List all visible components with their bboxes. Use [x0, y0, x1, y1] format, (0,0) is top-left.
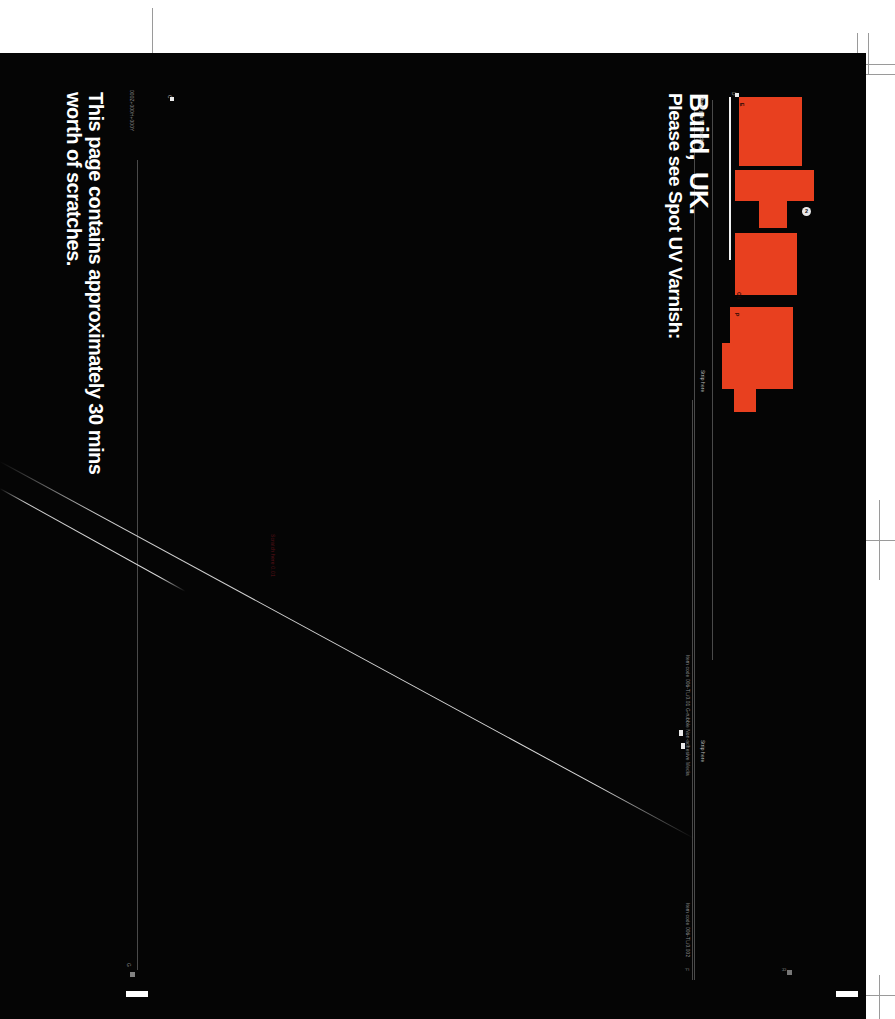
red-panel-e — [735, 170, 814, 201]
crop-mark-top-left-v — [152, 8, 153, 54]
dimensions-label: 000Z+000H+000Y — [129, 90, 134, 131]
red-panel-d — [739, 97, 802, 166]
brand-region: UK. — [683, 172, 714, 214]
bottom-registration-square-right — [787, 970, 792, 975]
panel-tab-e: E — [739, 103, 745, 106]
bottom-slug-left — [126, 991, 148, 997]
panel-tab-f: F — [684, 968, 689, 971]
fold-guide-baseline — [694, 110, 695, 980]
panel-tab-r: R — [781, 968, 786, 972]
strip-here-marker-1: Strip here — [700, 370, 705, 392]
registration-square-1 — [679, 730, 683, 736]
bottom-registration-square-left — [130, 972, 135, 977]
crop-mark-top-right-v2 — [868, 33, 869, 75]
item-code-top: Item code 006-TL/0.01 G-rubble Non-adhes… — [685, 655, 690, 776]
registration-square-2 — [681, 743, 685, 749]
panel-tab-g: G — [126, 963, 131, 967]
red-scratch-note: Scratch here 0.01 — [270, 534, 276, 577]
item-code-bottom: Item code 006-TL/0.002 — [685, 903, 690, 957]
red-panel-p-foot — [734, 389, 756, 412]
panel-tab-ch: CH — [736, 292, 742, 299]
red-panel-ch — [735, 233, 797, 295]
crop-mark-bottom-right-h — [866, 995, 895, 996]
print-proof-page: Please see Spot UV Varnish: Build, Thank… — [0, 0, 895, 1019]
scratch-copy-line-1: This page contains approximately 30 mins — [84, 92, 107, 474]
circle-marker-2: 2 — [802, 207, 811, 216]
red-panel-p-lower — [722, 343, 793, 389]
red-panel-e-tab — [759, 200, 787, 228]
fold-guide-tertiary — [692, 400, 693, 980]
crop-mark-bottom-right-v — [879, 975, 880, 1019]
scratch-copy-line-2: worth of scratches. — [62, 92, 85, 266]
crop-mark-right-mid-h — [862, 540, 895, 541]
strip-here-marker-2: Strip here — [700, 740, 705, 762]
registration-square-4 — [735, 93, 739, 97]
bottom-slug-right — [836, 991, 858, 997]
fold-guide-primary — [729, 97, 731, 260]
panel-tab-p: P — [734, 313, 740, 316]
registration-square-3 — [170, 97, 174, 101]
brand-tagline: Thank you for scratching — [699, 96, 704, 149]
